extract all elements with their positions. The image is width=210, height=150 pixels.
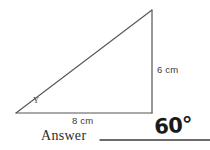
worksheet-page: 6 cm 8 cm Y Answer 60° [0, 0, 210, 150]
side-length-label-base: 8 cm [72, 115, 93, 126]
answer-prompt-label: Answer [41, 128, 86, 144]
side-length-label-vertical: 6 cm [157, 64, 178, 75]
handwritten-answer-value: 60° [153, 112, 193, 139]
angle-symbol-label: Y [33, 95, 39, 105]
